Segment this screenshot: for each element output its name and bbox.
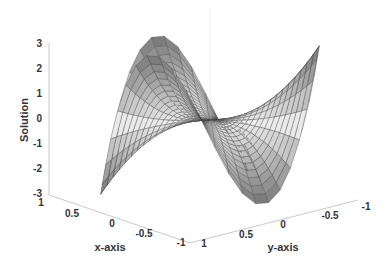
surface-plot: 3 2 1 0 -1 -2 -3 1 0.5 0 -0.5 -1 1 0.5 0… <box>0 0 388 269</box>
y-tick: 0 <box>280 219 286 230</box>
z-tick: -1 <box>33 138 42 149</box>
z-tick: 0 <box>36 113 42 124</box>
z-axis-label: Solution <box>18 98 30 142</box>
z-tick: 3 <box>36 38 42 49</box>
x-axis-label: x-axis <box>94 241 125 253</box>
x-tick: 1 <box>38 197 44 208</box>
y-tick: 0.5 <box>239 229 253 240</box>
x-tick: -1 <box>177 237 186 248</box>
x-tick: 0.5 <box>65 208 79 219</box>
z-tick: 2 <box>36 63 42 74</box>
z-tick: -2 <box>33 163 42 174</box>
y-tick: -1 <box>362 201 371 212</box>
y-axis-label: y-axis <box>267 241 298 253</box>
axes-box <box>49 8 358 243</box>
z-tick: 1 <box>36 88 42 99</box>
z-axis-ticks: 3 2 1 0 -1 -2 -3 <box>33 38 42 199</box>
x-tick: -0.5 <box>135 228 153 239</box>
y-tick: 1 <box>201 238 207 249</box>
y-tick: -0.5 <box>321 210 339 221</box>
x-tick: 0 <box>109 218 115 229</box>
